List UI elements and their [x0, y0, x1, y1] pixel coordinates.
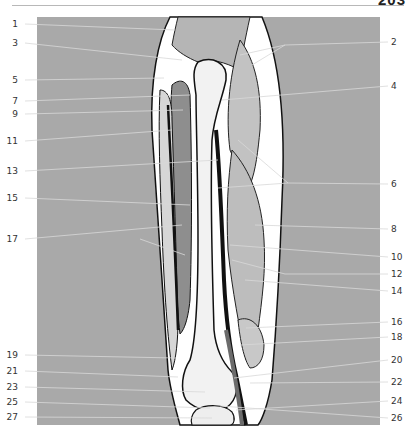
label-5: 5 [0, 75, 18, 85]
label-15: 15 [0, 193, 18, 203]
label-9: 9 [0, 109, 18, 119]
label-24: 24 [391, 396, 402, 406]
label-27: 27 [0, 412, 18, 422]
label-18: 18 [391, 332, 402, 342]
label-17: 17 [0, 234, 18, 244]
label-19: 19 [0, 350, 18, 360]
label-12: 12 [391, 269, 402, 279]
label-21: 21 [0, 366, 18, 376]
label-1: 1 [0, 19, 18, 29]
label-20: 20 [391, 355, 402, 365]
label-16: 16 [391, 317, 402, 327]
label-25: 25 [0, 397, 18, 407]
label-14: 14 [391, 286, 402, 296]
label-26: 26 [391, 413, 402, 423]
label-8: 8 [391, 224, 397, 234]
anatomy-illustration [0, 0, 414, 432]
label-23: 23 [0, 382, 18, 392]
label-4: 4 [391, 81, 397, 91]
label-22: 22 [391, 377, 402, 387]
label-3: 3 [0, 38, 18, 48]
label-7: 7 [0, 96, 18, 106]
label-10: 10 [391, 252, 402, 262]
tibia-head [191, 406, 234, 425]
label-2: 2 [391, 37, 397, 47]
label-11: 11 [0, 136, 18, 146]
label-6: 6 [391, 179, 397, 189]
label-13: 13 [0, 166, 18, 176]
